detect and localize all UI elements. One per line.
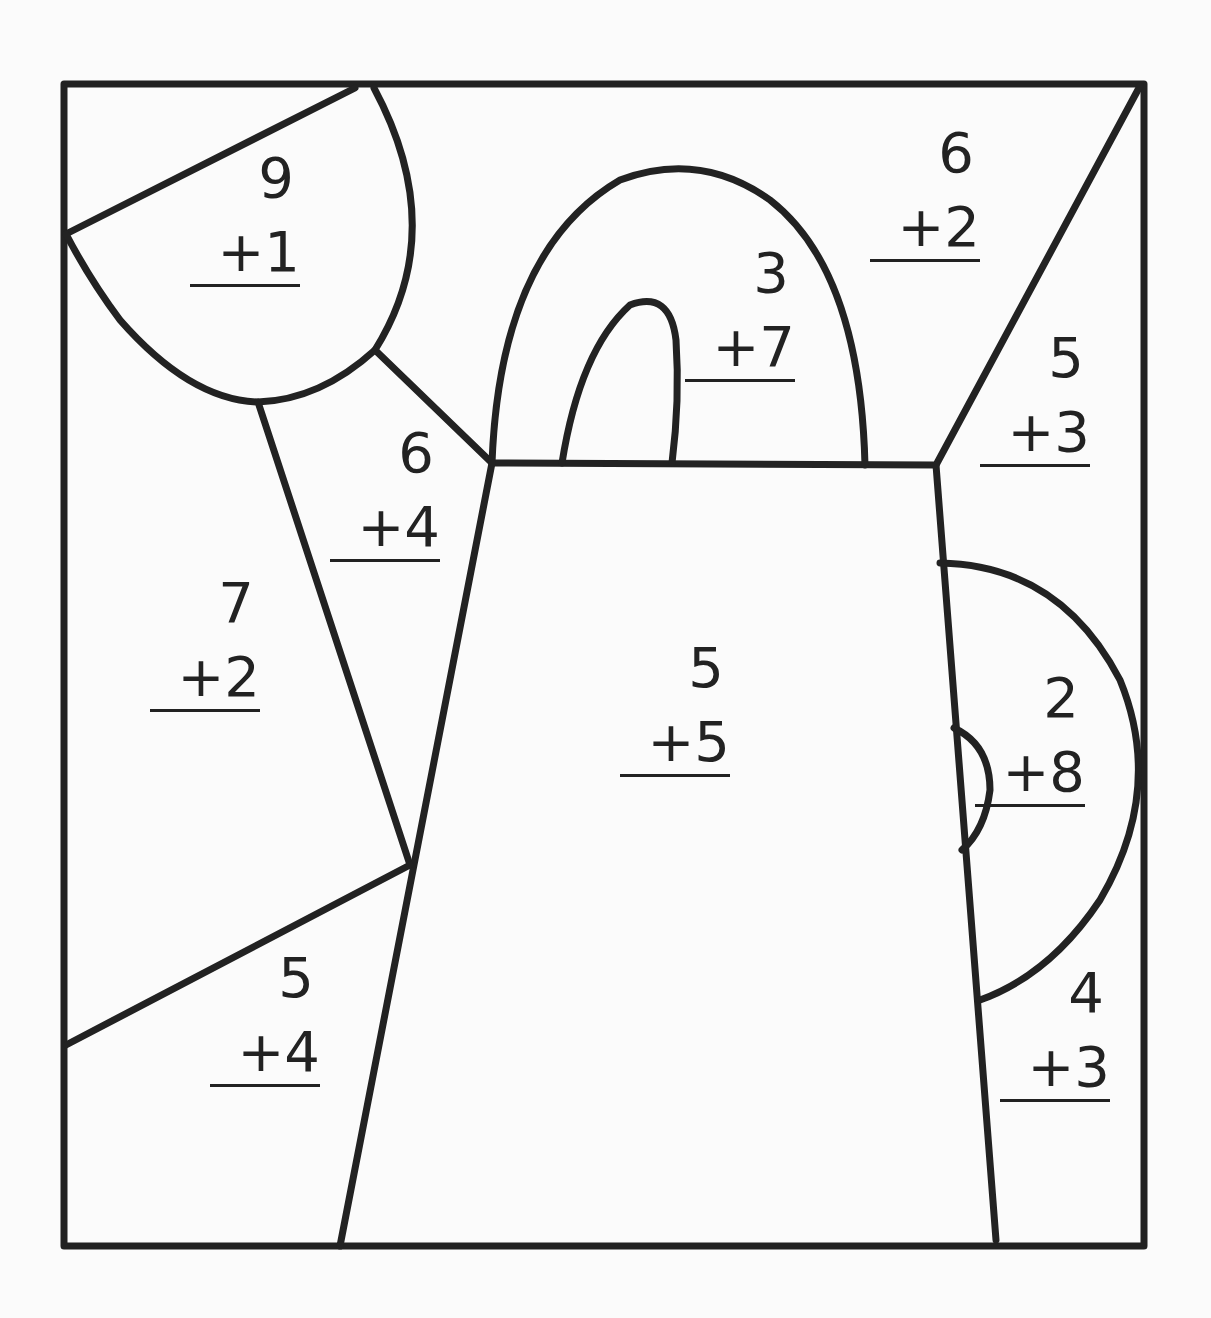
problem-pitcher-body: 5+5 <box>620 640 730 777</box>
problem-first-number: 3 <box>685 245 795 301</box>
problem-addend: +8 <box>975 744 1085 807</box>
problem-addend: +3 <box>1000 1039 1110 1102</box>
problem-handle: 3+7 <box>685 245 795 382</box>
problem-first-number: 7 <box>150 575 260 631</box>
problem-first-number: 4 <box>1000 965 1110 1021</box>
problem-first-number: 5 <box>620 640 730 696</box>
problem-sky-top-right: 6+2 <box>870 125 980 262</box>
problem-first-number: 5 <box>210 950 320 1006</box>
problem-addend: +4 <box>330 499 440 562</box>
problem-addend: +4 <box>210 1024 320 1087</box>
problem-bottom-right: 4+3 <box>1000 965 1110 1102</box>
problem-sun: 9+1 <box>190 150 300 287</box>
problem-addend: +7 <box>685 319 795 382</box>
problem-addend: +1 <box>190 224 300 287</box>
problem-first-number: 6 <box>870 125 980 181</box>
problem-first-number: 5 <box>980 330 1090 386</box>
problem-addend: +2 <box>870 199 980 262</box>
problem-addend: +3 <box>980 404 1090 467</box>
problem-addend: +2 <box>150 649 260 712</box>
problem-spout: 2+8 <box>975 670 1085 807</box>
problem-bottom-left: 5+4 <box>210 950 320 1087</box>
problem-first-number: 2 <box>975 670 1085 726</box>
problem-right-upper: 5+3 <box>980 330 1090 467</box>
problem-first-number: 6 <box>330 425 440 481</box>
problem-sun-ray: 6+4 <box>330 425 440 562</box>
problem-first-number: 9 <box>190 150 300 206</box>
problem-left-middle: 7+2 <box>150 575 260 712</box>
problem-addend: +5 <box>620 714 730 777</box>
